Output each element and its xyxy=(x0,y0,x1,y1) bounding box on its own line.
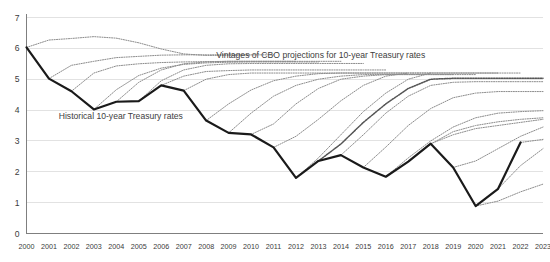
x-tick-label-2016: 2016 xyxy=(378,242,394,251)
x-tick-label-2017: 2017 xyxy=(400,242,416,251)
historical-label: Historical 10-year Treasury rates xyxy=(59,111,183,121)
projection-line xyxy=(341,82,543,155)
y-tick-label-6: 6 xyxy=(15,43,20,53)
projection-line xyxy=(139,63,364,101)
y-tick-label-0: 0 xyxy=(15,229,20,239)
y-tick-label-7: 7 xyxy=(15,13,20,23)
x-tick-label-2014: 2014 xyxy=(333,242,349,251)
projection-line xyxy=(408,118,543,162)
x-tick-label-2010: 2010 xyxy=(243,242,259,251)
projection-line xyxy=(116,61,341,101)
y-tick-label-2: 2 xyxy=(15,167,20,177)
projection-line xyxy=(318,78,543,161)
x-tick-label-2011: 2011 xyxy=(266,242,281,251)
x-tick-label-2015: 2015 xyxy=(355,242,371,251)
chart-canvas: 01234567 2000200120022003200420052006200… xyxy=(0,0,550,262)
projection-line xyxy=(498,149,543,189)
y-tick-label-1: 1 xyxy=(15,198,20,208)
x-tick-label-2000: 2000 xyxy=(19,242,35,251)
x-tick-label-2006: 2006 xyxy=(153,242,169,251)
x-tick-label-2004: 2004 xyxy=(108,242,124,251)
x-tick-label-2013: 2013 xyxy=(310,242,326,251)
projection-line xyxy=(431,119,543,143)
x-tick-label-2023: 2023 xyxy=(535,242,550,251)
projection-line xyxy=(453,127,543,167)
y-tick-label-5: 5 xyxy=(15,74,20,84)
x-tick-label-2008: 2008 xyxy=(198,242,214,251)
y-tick-label-4: 4 xyxy=(15,105,20,115)
x-tick-label-2019: 2019 xyxy=(445,242,461,251)
x-tick-labels: 2000200120022003200420052006200720082009… xyxy=(19,242,550,251)
x-tick-label-2021: 2021 xyxy=(490,242,506,251)
x-tick-label-2009: 2009 xyxy=(221,242,237,251)
projection-line xyxy=(363,92,543,168)
x-tick-label-2022: 2022 xyxy=(513,242,529,251)
projections-label: Vintages of CBO projections for 10-year … xyxy=(216,50,425,60)
x-tick-label-2020: 2020 xyxy=(468,242,484,251)
x-tick-label-2007: 2007 xyxy=(176,242,192,251)
x-tick-label-2012: 2012 xyxy=(288,242,304,251)
projection-series-group xyxy=(27,37,544,206)
x-tick-label-2001: 2001 xyxy=(41,242,57,251)
y-tick-label-3: 3 xyxy=(15,136,20,146)
treasury-rates-chart: 01234567 2000200120022003200420052006200… xyxy=(0,0,550,262)
x-tick-label-2002: 2002 xyxy=(63,242,79,251)
x-tick-label-2003: 2003 xyxy=(86,242,102,251)
x-tick-label-2005: 2005 xyxy=(131,242,147,251)
y-tick-labels: 01234567 xyxy=(15,13,20,239)
x-tick-label-2018: 2018 xyxy=(423,242,439,251)
